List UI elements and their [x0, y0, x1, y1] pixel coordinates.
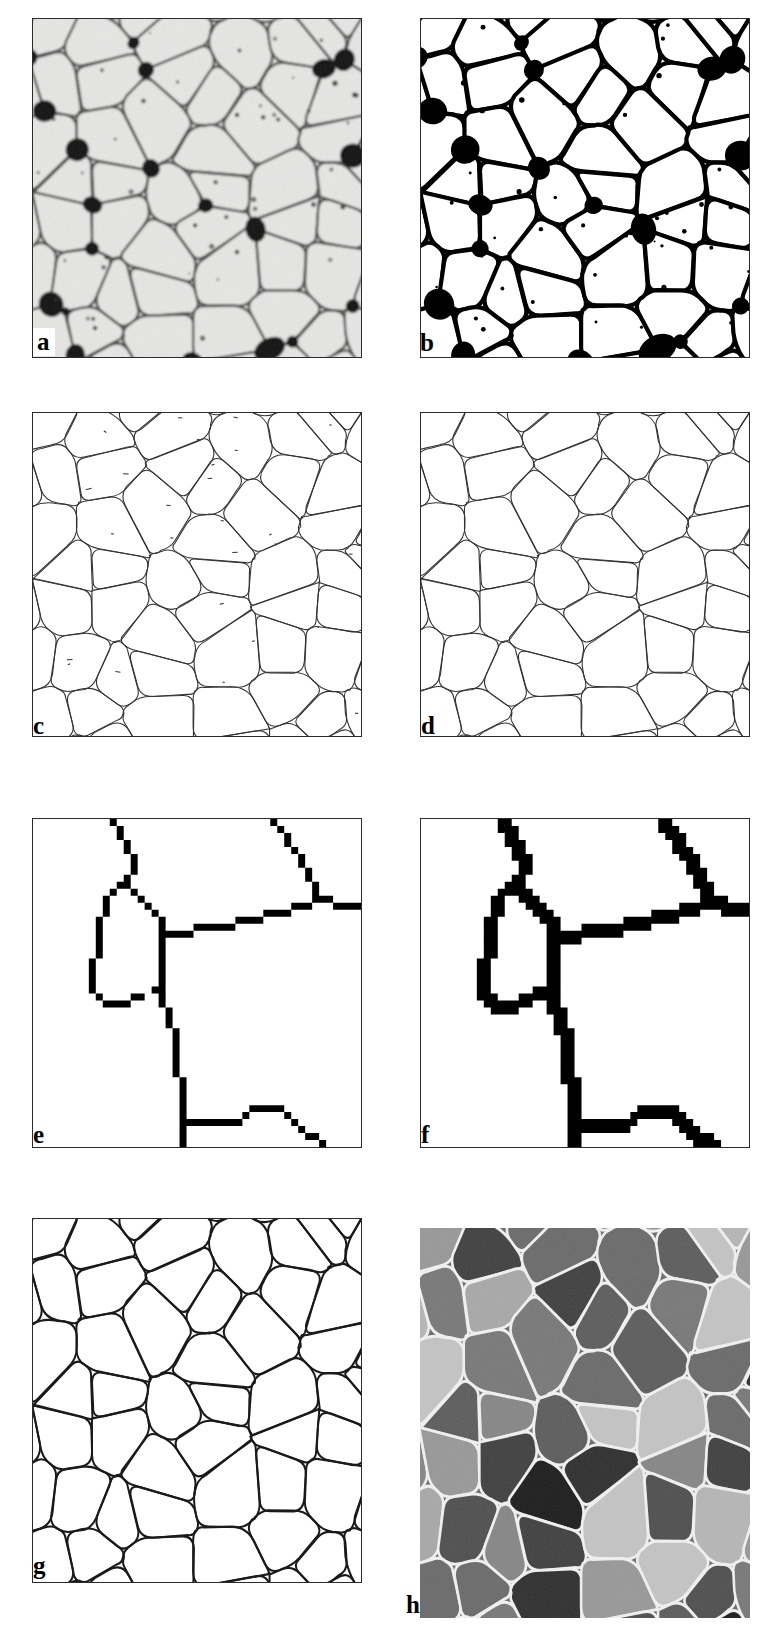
panel-label-e: e [33, 1122, 44, 1147]
panel-label-h: h [406, 1592, 420, 1617]
panel-c-skeleton-raw [32, 412, 362, 737]
panel-f-magnified-repaired [420, 818, 750, 1148]
panel-d-skeleton-cleaned [420, 412, 750, 737]
panel-g-closed-network [32, 1218, 362, 1583]
panel-label-b: b [420, 330, 434, 355]
panel-h-labeled-grains [420, 1228, 750, 1618]
panel-label-g: g [33, 1553, 46, 1578]
panel-label-a: a [33, 328, 55, 356]
panel-label-d: d [421, 713, 435, 738]
panel-b-binary-threshold [420, 18, 750, 358]
figure-panel-grid: a b c d e f g h [0, 0, 760, 1637]
panel-label-c: c [33, 713, 44, 738]
panel-a-original-micrograph [32, 18, 362, 358]
panel-e-magnified-gap [32, 818, 362, 1148]
panel-label-f: f [421, 1122, 429, 1147]
